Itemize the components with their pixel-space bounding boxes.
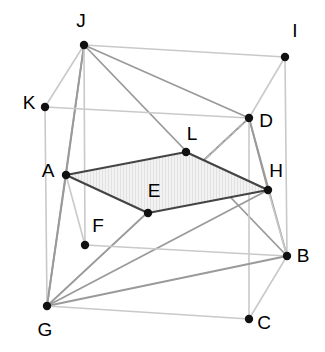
edge-JD — [84, 45, 249, 118]
vertex-dot-G — [43, 302, 51, 310]
edge-GB — [47, 256, 287, 306]
vertex-label-J: J — [76, 10, 86, 31]
edge-ID — [249, 57, 285, 118]
edge-CB — [249, 256, 287, 319]
edge-JF — [84, 45, 85, 245]
vertex-dot-L — [182, 148, 190, 156]
vertex-label-I: I — [292, 20, 297, 41]
edge-AF — [66, 175, 85, 245]
edge-KD — [45, 107, 249, 118]
vertex-dot-D — [245, 114, 253, 122]
vertex-dot-B — [283, 252, 291, 260]
edge-AG — [47, 175, 66, 306]
vertex-label-F: F — [92, 215, 104, 236]
vertex-label-L: L — [187, 123, 198, 144]
edge-FB — [85, 245, 287, 256]
geometry-figure: ABCDEFGHIJKL — [0, 0, 325, 352]
vertex-dot-H — [264, 186, 272, 194]
vertex-dot-I — [281, 53, 289, 61]
vertex-label-G: G — [38, 319, 53, 340]
vertex-dot-J — [80, 41, 88, 49]
vertex-label-E: E — [148, 180, 161, 201]
edge-IB — [285, 57, 287, 256]
vertex-label-B: B — [297, 245, 310, 266]
vertex-dot-E — [144, 209, 152, 217]
vertex-label-A: A — [42, 160, 55, 181]
edge-JK — [45, 45, 84, 107]
edge-JI — [84, 45, 285, 57]
edge-KG — [45, 107, 47, 306]
vertex-dot-C — [245, 315, 253, 323]
vertex-label-D: D — [259, 110, 273, 131]
edge-GC — [47, 306, 249, 319]
vertex-label-K: K — [23, 92, 36, 113]
vertex-dot-K — [41, 103, 49, 111]
vertex-dot-F — [81, 241, 89, 249]
diagram-canvas: ABCDEFGHIJKL — [0, 0, 325, 352]
vertex-dot-A — [62, 171, 70, 179]
vertex-label-C: C — [257, 312, 271, 333]
vertex-label-H: H — [269, 160, 283, 181]
